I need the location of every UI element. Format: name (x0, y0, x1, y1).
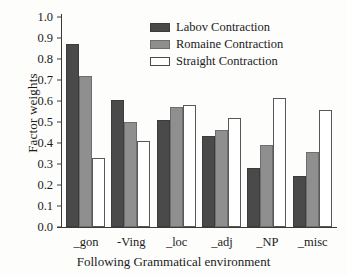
legend-item: Straight Contraction (150, 54, 283, 69)
y-axis-tick-label: 0.7 (37, 73, 53, 88)
legend-swatch-labov (150, 23, 170, 32)
y-axis-tick: 0.4 (37, 136, 62, 151)
x-axis-line (57, 227, 337, 228)
bar-misc-romaine (306, 152, 319, 227)
bar-ving-labov (111, 100, 124, 227)
y-axis-tick-mark (57, 122, 62, 123)
y-axis-tick: 1.0 (37, 10, 62, 25)
bar-adj-labov (202, 136, 215, 227)
y-axis-tick: 0.7 (37, 73, 62, 88)
x-axis-tick-label: _misc (298, 235, 328, 250)
y-axis-tick-mark (57, 143, 62, 144)
bar-gon-romaine (79, 76, 92, 227)
y-axis-tick-label: 0.2 (37, 178, 53, 193)
bar-chart-figure: Factor weights 0.00.10.20.30.40.50.60.70… (0, 0, 347, 276)
y-axis-tick-mark (57, 185, 62, 186)
y-axis-tick-mark (57, 17, 62, 18)
bar-misc-straight (319, 110, 332, 227)
bar-gon-labov (66, 44, 79, 227)
y-axis-tick: 0.0 (37, 220, 62, 235)
bar-np-labov (247, 168, 260, 227)
y-axis-tick: 0.8 (37, 52, 62, 67)
bar-adj-romaine (215, 130, 228, 227)
bar-np-romaine (260, 145, 273, 227)
bar-group: -Ving (111, 17, 150, 227)
legend-swatch-romaine (150, 40, 170, 49)
bar-ving-straight (137, 141, 150, 227)
bar-adj-straight (228, 118, 241, 227)
legend-item: Labov Contraction (150, 20, 283, 35)
y-axis-tick-label: 0.5 (37, 115, 53, 130)
y-axis-tick-mark (57, 38, 62, 39)
bar-misc-labov (293, 176, 306, 227)
bar-loc-labov (157, 120, 170, 227)
y-axis-tick-mark (57, 59, 62, 60)
y-axis-tick-label: 0.0 (37, 220, 53, 235)
x-axis-title: Following Grammatical environment (0, 254, 347, 270)
x-axis-tick-label: _NP (256, 235, 278, 250)
bar-loc-romaine (170, 107, 183, 227)
y-axis-tick: 0.6 (37, 94, 62, 109)
y-axis-tick-label: 0.6 (37, 94, 53, 109)
x-axis-tick-label: _gon (74, 235, 99, 250)
bar-np-straight (273, 98, 286, 227)
x-axis-tick-label: -Ving (117, 235, 145, 250)
y-axis-tick: 0.5 (37, 115, 62, 130)
legend-label: Romaine Contraction (176, 37, 283, 52)
y-axis-tick-label: 1.0 (37, 10, 53, 25)
bar-group: _gon (66, 17, 105, 227)
y-axis-tick: 0.3 (37, 157, 62, 172)
chart-legend: Labov ContractionRomaine ContractionStra… (150, 20, 283, 71)
bar-gon-straight (92, 158, 105, 227)
bar-ving-romaine (124, 122, 137, 227)
x-axis-tick-label: _loc (166, 235, 188, 250)
bar-loc-straight (183, 105, 196, 227)
y-axis-tick-mark (57, 206, 62, 207)
y-axis-tick-label: 0.1 (37, 199, 53, 214)
legend-label: Labov Contraction (176, 20, 270, 35)
y-axis-tick-label: 0.4 (37, 136, 53, 151)
y-axis-tick: 0.1 (37, 199, 62, 214)
legend-swatch-straight (150, 57, 170, 66)
y-axis-tick-mark (57, 101, 62, 102)
legend-item: Romaine Contraction (150, 37, 283, 52)
y-axis-tick: 0.2 (37, 178, 62, 193)
y-axis-tick-mark (57, 80, 62, 81)
y-axis-tick-label: 0.8 (37, 52, 53, 67)
y-axis-tick-label: 0.3 (37, 157, 53, 172)
y-axis-tick-mark (57, 227, 62, 228)
y-axis-tick-label: 0.9 (37, 31, 53, 46)
legend-label: Straight Contraction (176, 54, 278, 69)
y-axis-tick-mark (57, 164, 62, 165)
y-axis-tick: 0.9 (37, 31, 62, 46)
bar-group: _misc (293, 17, 332, 227)
x-axis-tick-label: _adj (211, 235, 233, 250)
